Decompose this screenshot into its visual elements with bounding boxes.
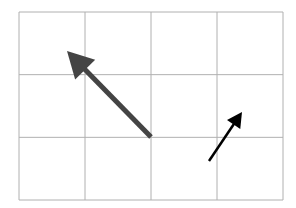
vectors [67, 51, 242, 161]
arrow-shaft [209, 123, 235, 161]
arrow-shaft [84, 68, 151, 137]
arrow-head-icon [227, 112, 242, 129]
vector-grid-diagram [0, 0, 296, 208]
grid [19, 12, 283, 200]
large-vector [67, 51, 151, 137]
small-vector [209, 112, 242, 161]
